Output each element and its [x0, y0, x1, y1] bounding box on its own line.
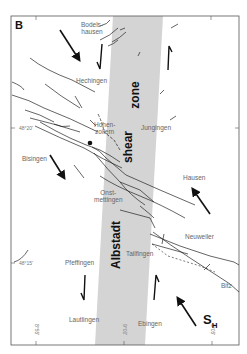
- town-bitz: Bitz: [221, 283, 232, 290]
- dextral-arrow-4: [154, 275, 159, 300]
- town-bodelshausen: Bodels- hausen: [81, 22, 103, 35]
- town-onstmettingen: Onst- mettingen: [94, 190, 123, 203]
- dextral-arrow-2: [168, 46, 172, 70]
- arrow-se-1: [194, 191, 210, 214]
- geologic-map: B Bodels- hausen Hechingen Hohen- zoller…: [0, 0, 247, 354]
- town-jungingen: Jungingen: [141, 125, 171, 132]
- arrow-nw-2: [50, 155, 63, 176]
- shear-label: shear: [121, 127, 135, 167]
- town-ebingen: Ebingen: [138, 321, 162, 328]
- town-neuweiler: Neuweiler: [185, 234, 214, 241]
- dextral-arrow-3: [81, 275, 85, 300]
- town-tailfingen: Tailfingen: [126, 251, 153, 258]
- arrow-se-2: [179, 300, 196, 326]
- town-label: hausen: [81, 29, 103, 36]
- town-bisingen: Bisingen: [22, 156, 47, 163]
- arrow-nw-1: [60, 30, 78, 58]
- dextral-arrow-1: [97, 44, 102, 69]
- albstadt-label: Albstadt: [109, 215, 123, 275]
- shear-zone-band: [95, 16, 163, 345]
- hohenzollern-castle-dot: [88, 141, 93, 146]
- latitude-label: 48°15': [19, 260, 33, 266]
- latitude-label: 48°20': [19, 125, 33, 131]
- town-hausen: Hausen: [183, 175, 205, 182]
- panel-label: B: [15, 19, 23, 31]
- longitude-label: 8°55': [34, 324, 40, 335]
- town-label: mettingen: [94, 197, 123, 204]
- town-hechingen: Hechingen: [76, 78, 107, 85]
- town-lautlingen: Lautlingen: [69, 317, 99, 324]
- stress-label-main: S: [203, 312, 212, 327]
- stress-label-sh: SH: [203, 312, 217, 330]
- town-hohenzollern: Hohen- zollern: [94, 122, 115, 135]
- town-pfeffingen: Pfeffingen: [65, 260, 94, 267]
- longitude-label: 9°00': [122, 324, 128, 335]
- town-label: zollern: [94, 129, 115, 136]
- stress-label-sub: H: [212, 321, 218, 330]
- zone-label: zone: [128, 77, 142, 113]
